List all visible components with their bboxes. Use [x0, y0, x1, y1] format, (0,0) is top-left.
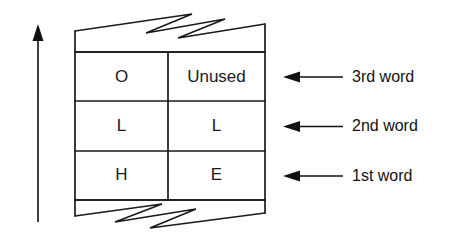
memory-cell-high-byte: O [115, 67, 128, 86]
memory-cell-low-byte: Unused [187, 67, 246, 86]
zigzag-break-top-icon [75, 14, 265, 52]
memory-cell-high-byte: H [115, 165, 127, 184]
growth-arrow-head-icon [33, 24, 44, 41]
annotation-label: 1st word [352, 167, 412, 184]
memory-row-2nd-word: L L [117, 116, 221, 135]
arrow-left-icon [283, 171, 300, 182]
annotation-3rd-word: 3rd word [283, 68, 414, 85]
memory-cell-high-byte: L [117, 116, 126, 135]
annotation-1st-word: 1st word [283, 167, 412, 184]
memory-block: O Unused L L H E [75, 14, 265, 228]
memory-row-3rd-word: O Unused [115, 67, 246, 86]
zigzag-break-bottom-icon [75, 200, 265, 228]
annotation-2nd-word: 2nd word [283, 117, 418, 134]
annotation-label: 3rd word [352, 68, 414, 85]
arrow-left-icon [283, 121, 300, 132]
memory-cell-low-byte: L [212, 116, 221, 135]
memory-cell-low-byte: E [211, 165, 222, 184]
memory-layout-figure: O Unused L L H E 3rd word 2nd word [0, 0, 452, 240]
arrow-left-icon [283, 72, 300, 83]
annotation-label: 2nd word [352, 117, 418, 134]
upward-growth-arrow [33, 24, 44, 222]
figure-canvas: O Unused L L H E 3rd word 2nd word [0, 0, 452, 240]
